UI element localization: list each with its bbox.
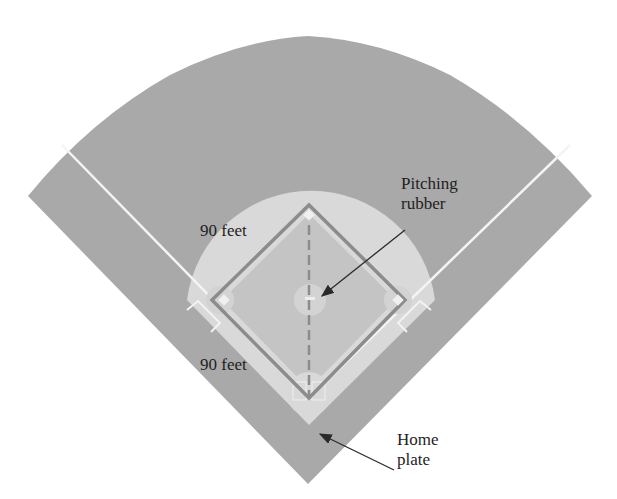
home-plate-label-line2: plate [397, 450, 439, 470]
pitching-rubber-label: Pitching rubber [401, 174, 458, 214]
baseball-field-diagram [0, 0, 617, 499]
home-plate-label: Home plate [397, 430, 439, 470]
home-plate-label-line1: Home [397, 430, 439, 450]
pitching-rubber-label-line2: rubber [401, 194, 458, 214]
lower-side-length-label: 90 feet [200, 355, 247, 375]
pitching-rubber [305, 297, 315, 300]
upper-side-length-label: 90 feet [200, 221, 247, 241]
pitching-rubber-label-line1: Pitching [401, 174, 458, 194]
